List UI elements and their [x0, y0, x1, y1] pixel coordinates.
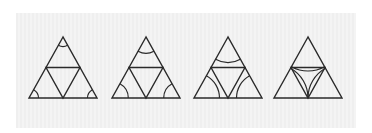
inner-triangle	[211, 68, 245, 99]
triangle-stage-3	[194, 37, 262, 98]
triangle-stage-4	[274, 37, 342, 98]
corner-arc	[120, 84, 128, 98]
corner-arc	[87, 90, 92, 98]
corner-arc	[138, 51, 154, 53]
corner-arc	[164, 84, 172, 98]
inner-triangle	[46, 68, 80, 99]
corner-arc	[58, 45, 67, 46]
triangle-stage-2	[112, 37, 180, 98]
corner-arc	[34, 90, 39, 98]
triangle-figure	[0, 0, 372, 133]
corner-arc	[216, 59, 241, 62]
triangle-stage-1	[29, 37, 97, 98]
inner-triangle	[129, 68, 163, 99]
